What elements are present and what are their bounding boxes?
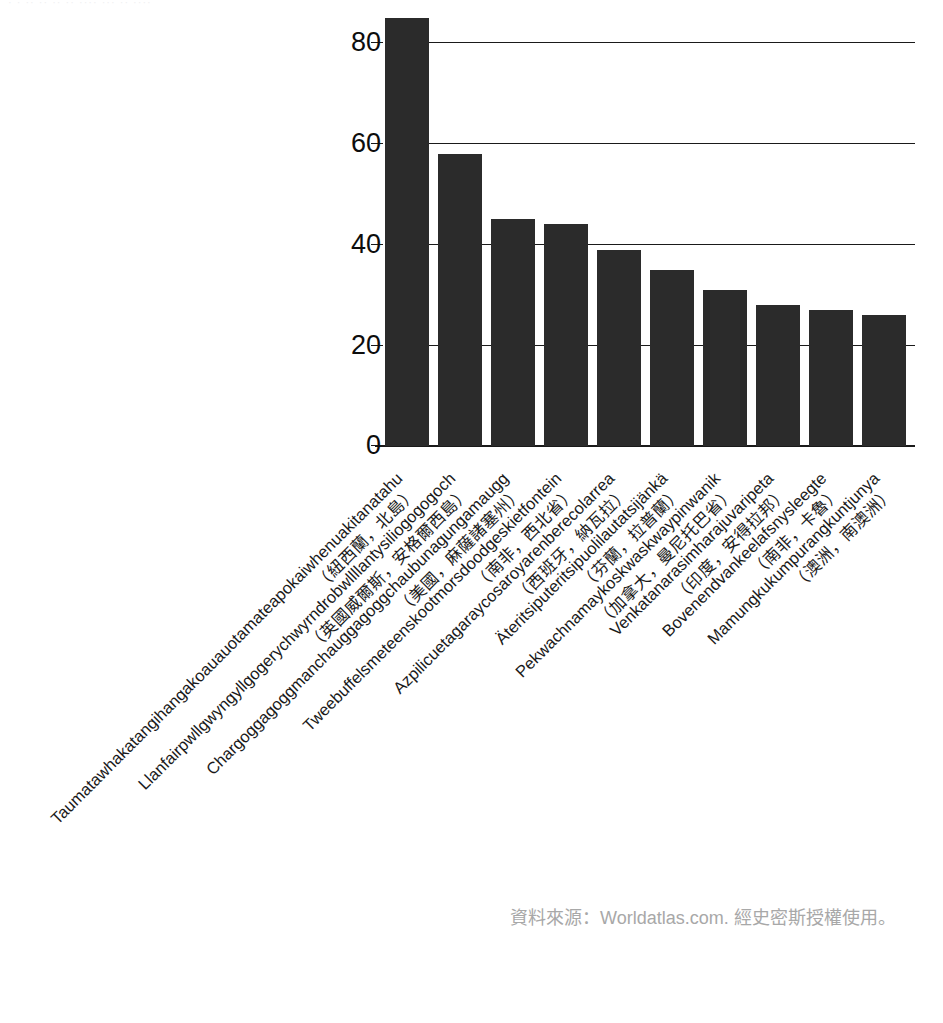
bar-8[interactable] bbox=[809, 310, 853, 446]
source-note: 資料來源：Worldatlas.com. 經史密斯授權使用。 bbox=[510, 903, 896, 929]
xlabel-3-name: Tweebuffelsmeteenskootmorsdoodgeskietfon… bbox=[0, 468, 566, 1023]
ytick-label-40: 40 bbox=[321, 231, 381, 258]
bar-4[interactable] bbox=[597, 250, 641, 446]
bar-series bbox=[385, 12, 915, 446]
bar-6[interactable] bbox=[703, 290, 747, 446]
bar-9[interactable] bbox=[862, 315, 906, 446]
xlabel-2-region: （美國，麻薩諸塞州） bbox=[0, 483, 528, 1023]
xlabel-8: Bovenendvankeelafsnysleegte （南非，卡魯） bbox=[0, 468, 846, 1023]
xlabel-5: Äteritsiputeritsipuolilautatsijänkä （芬蘭，… bbox=[0, 468, 687, 1023]
xlabel-1-name: Llanfairpwllgwyngyllgogerychwyrndrobwlll… bbox=[0, 468, 460, 1023]
bar-3[interactable] bbox=[544, 224, 588, 446]
xlabel-7-region: （印度，安得拉邦） bbox=[0, 483, 793, 1023]
bar-chart: 80 60 40 20 0 Taumatawhakatangihangakoau… bbox=[0, 0, 943, 1023]
xlabel-9-name: Mamungkukumpurangkuntjunya bbox=[0, 468, 884, 1023]
ytick-label-80: 80 bbox=[321, 29, 381, 56]
xlabel-6-name: Pekwachnamaykoskwaskwaypinwanik bbox=[0, 468, 725, 1023]
xlabel-1-region: （英國威爾斯，安格爾西島） bbox=[0, 483, 475, 1023]
xlabel-6: Pekwachnamaykoskwaskwaypinwanik （加拿大，曼尼托… bbox=[0, 468, 740, 1023]
bar-0[interactable] bbox=[385, 18, 429, 446]
xlabel-7-name: Venkatanarasimharajuvaripeta bbox=[0, 468, 778, 1023]
xlabel-8-region: （南非，卡魯） bbox=[0, 483, 846, 1023]
xlabel-2: Chargoggagoggmanchauggagoggchaubunagunga… bbox=[0, 468, 528, 1023]
ytick-label-20: 20 bbox=[321, 332, 381, 359]
xlabel-9: Mamungkukumpurangkuntjunya （澳洲，南澳洲） bbox=[0, 468, 899, 1023]
xlabel-7: Venkatanarasimharajuvaripeta （印度，安得拉邦） bbox=[0, 468, 793, 1023]
bar-2[interactable] bbox=[491, 219, 535, 446]
xlabel-3-region: （南非，西北省） bbox=[0, 483, 581, 1023]
bar-5[interactable] bbox=[650, 270, 694, 446]
xlabel-5-region: （芬蘭，拉普蘭） bbox=[0, 483, 687, 1023]
xlabel-4-region: （西班牙，納瓦拉） bbox=[0, 483, 634, 1023]
xlabel-0: Taumatawhakatangihangakoauauotamateapoka… bbox=[0, 468, 422, 1023]
xlabel-9-region: （澳洲，南澳洲） bbox=[0, 483, 899, 1023]
plot-area: 80 60 40 20 0 bbox=[385, 12, 915, 446]
xlabel-4-name: Azpilicuetagaraycosaroyarenberecolarrea bbox=[0, 468, 619, 1023]
xlabel-5-name: Äteritsiputeritsipuolilautatsijänkä bbox=[0, 468, 672, 1023]
xlabel-8-name: Bovenendvankeelafsnysleegte bbox=[0, 468, 831, 1023]
xlabel-3: Tweebuffelsmeteenskootmorsdoodgeskietfon… bbox=[0, 468, 581, 1023]
bar-7[interactable] bbox=[756, 305, 800, 446]
ytick-label-60: 60 bbox=[321, 130, 381, 157]
xlabel-2-name: Chargoggagoggmanchauggagoggchaubunagunga… bbox=[0, 468, 513, 1023]
xlabel-1: Llanfairpwllgwyngyllgogerychwyrndrobwlll… bbox=[0, 468, 475, 1023]
xlabel-4: Azpilicuetagaraycosaroyarenberecolarrea … bbox=[0, 468, 634, 1023]
ytick-label-0: 0 bbox=[321, 432, 381, 459]
xlabel-0-name: Taumatawhakatangihangakoauauotamateapoka… bbox=[0, 468, 407, 1023]
xlabel-6-region: （加拿大，曼尼托巴省） bbox=[0, 483, 740, 1023]
xlabel-0-region: （紐西蘭，北島） bbox=[0, 483, 422, 1023]
bar-1[interactable] bbox=[438, 154, 482, 446]
